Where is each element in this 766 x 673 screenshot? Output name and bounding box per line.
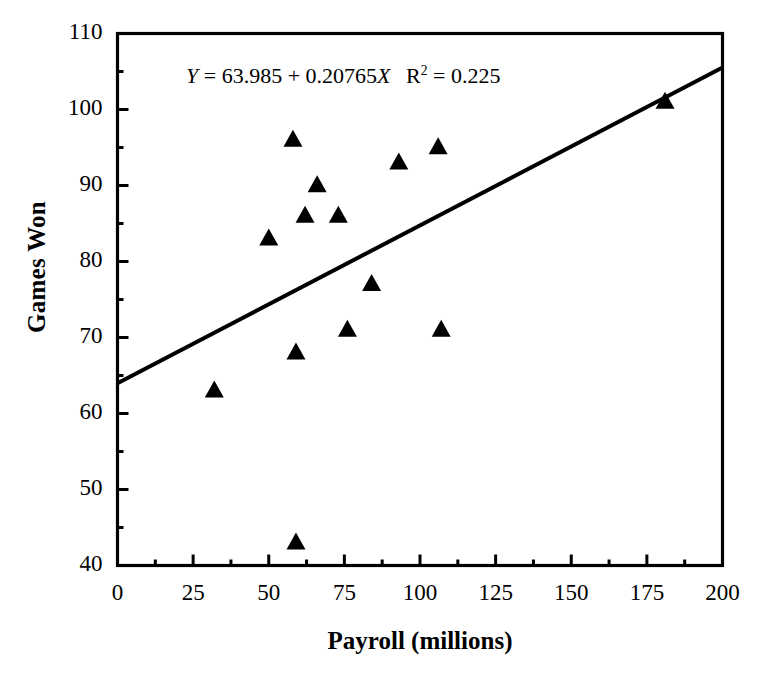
x-tick-label: 175 — [607, 580, 687, 606]
x-tick-label: 50 — [229, 580, 309, 606]
minor-ticks — [118, 72, 685, 566]
y-tick-label: 90 — [33, 171, 103, 197]
data-point-marker — [432, 320, 451, 337]
data-point-marker — [259, 229, 278, 246]
data-point-marker — [362, 274, 381, 291]
x-tick-label: 150 — [531, 580, 611, 606]
data-point-marker — [329, 206, 348, 223]
data-points — [205, 92, 675, 550]
data-point-marker — [296, 206, 315, 223]
x-tick-label: 125 — [456, 580, 536, 606]
y-tick-label: 80 — [33, 247, 103, 273]
x-tick-label: 200 — [683, 580, 763, 606]
data-point-marker — [429, 137, 448, 154]
y-tick-label: 110 — [33, 19, 103, 45]
x-tick-label: 75 — [304, 580, 384, 606]
data-point-marker — [308, 175, 327, 192]
y-tick-label: 40 — [33, 551, 103, 577]
data-point-marker — [205, 381, 224, 398]
y-tick-label: 60 — [33, 399, 103, 425]
y-tick-label: 100 — [33, 95, 103, 121]
x-tick-label: 25 — [153, 580, 233, 606]
x-tick-label: 0 — [78, 580, 158, 606]
y-tick-label: 50 — [33, 475, 103, 501]
data-point-marker — [389, 153, 408, 170]
data-point-marker — [283, 130, 302, 147]
scatter-plot-figure: Games Won Payroll (millions) Y = 63.985 … — [0, 0, 766, 673]
data-point-marker — [338, 320, 357, 337]
x-tick-label: 100 — [380, 580, 460, 606]
y-tick-label: 70 — [33, 323, 103, 349]
data-point-marker — [286, 343, 305, 360]
regression-line — [118, 68, 723, 384]
plot-canvas — [0, 0, 766, 673]
data-point-marker — [286, 533, 305, 550]
